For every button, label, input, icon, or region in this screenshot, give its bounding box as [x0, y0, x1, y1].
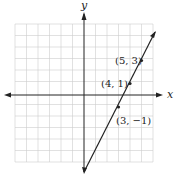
x-arrow-right-icon: [156, 93, 163, 98]
x-axis-label: x: [167, 88, 174, 101]
point-4-1: [128, 82, 131, 85]
line-arrow-bottom-icon: [82, 167, 87, 174]
x-arrow-left-icon: [4, 93, 11, 98]
y-axis-label: y: [80, 0, 88, 12]
label-3-neg1: (3, −1): [116, 115, 151, 126]
label-5-3: (5, 3): [115, 55, 142, 66]
axes: [8, 14, 160, 172]
coordinate-plane: (5, 3) (4, 1) (3, −1) x y: [0, 0, 175, 181]
label-4-1: (4, 1): [101, 78, 128, 89]
y-arrow-up-icon: [82, 12, 87, 20]
line-graph: [84, 32, 155, 172]
point-3-neg1: [117, 105, 120, 108]
